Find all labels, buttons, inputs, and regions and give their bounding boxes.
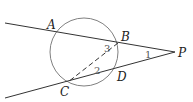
dashed-chord-BC: [68, 43, 118, 82]
angle-label-2: 2: [94, 65, 100, 76]
angle-label-1: 1: [145, 49, 151, 60]
point-label-B: B: [120, 30, 130, 44]
secant-line-ABP: [5, 23, 175, 52]
point-label-D: D: [116, 70, 127, 84]
point-label-A: A: [46, 18, 56, 32]
geometry-diagram: A B C D P 1 2 3: [0, 0, 193, 102]
angle-label-3: 3: [104, 43, 110, 54]
point-label-C: C: [60, 85, 69, 99]
point-label-P: P: [177, 46, 187, 60]
